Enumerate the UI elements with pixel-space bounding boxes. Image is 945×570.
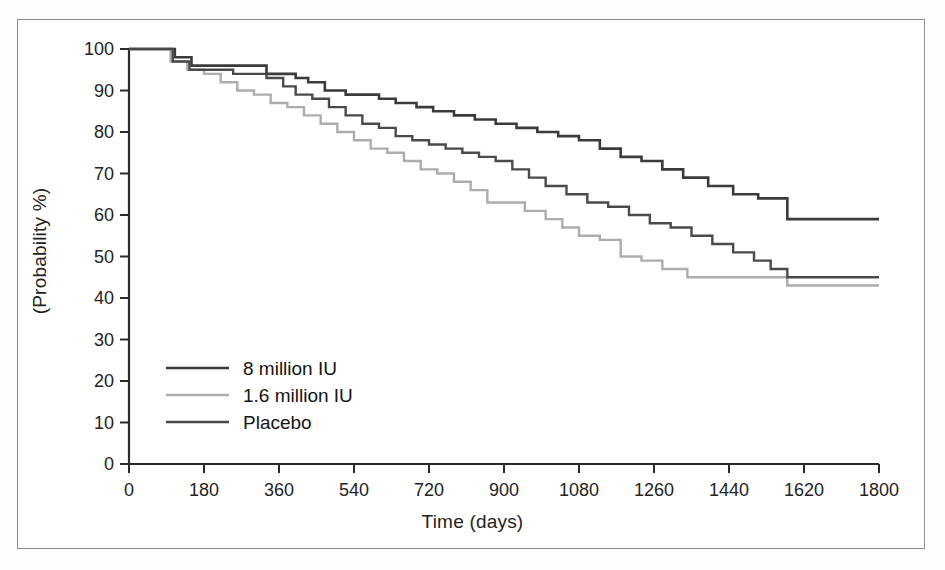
- figure-root: 0102030405060708090100018036054072090010…: [0, 0, 945, 570]
- x-tick-label: 360: [264, 480, 294, 500]
- x-tick-label: 1800: [859, 480, 899, 500]
- series-line-3: [129, 49, 879, 277]
- x-tick-label: 1080: [559, 480, 599, 500]
- x-axis-title: Time (days): [0, 511, 945, 533]
- legend-label-2: 1.6 million IU: [243, 385, 353, 406]
- y-tick-label: 0: [104, 454, 114, 474]
- legend-label-3: Placebo: [243, 412, 312, 433]
- y-tick-label: 90: [94, 81, 114, 101]
- y-tick-label: 50: [94, 247, 114, 267]
- series-group: [129, 49, 879, 286]
- kaplan-meier-plot: 0102030405060708090100018036054072090010…: [18, 20, 926, 550]
- y-tick-label: 60: [94, 205, 114, 225]
- y-axis-title: (Probability %): [29, 141, 51, 361]
- y-tick-label: 70: [94, 164, 114, 184]
- legend: 8 million IU1.6 million IUPlacebo: [166, 358, 353, 433]
- x-tick-label: 1260: [634, 480, 674, 500]
- x-tick-label: 720: [414, 480, 444, 500]
- series-line-2: [129, 49, 879, 286]
- x-tick-label: 900: [489, 480, 519, 500]
- x-tick-label: 180: [189, 480, 219, 500]
- x-tick-label: 1440: [709, 480, 749, 500]
- y-tick-label: 30: [94, 330, 114, 350]
- x-tick-label: 1620: [784, 480, 824, 500]
- y-tick-label: 40: [94, 288, 114, 308]
- y-tick-label: 10: [94, 413, 114, 433]
- legend-label-1: 8 million IU: [243, 358, 337, 379]
- axes: [129, 49, 879, 464]
- x-tick-label: 0: [124, 480, 134, 500]
- y-tick-label: 100: [84, 39, 114, 59]
- x-tick-label: 540: [339, 480, 369, 500]
- x-tick-group: 018036054072090010801260144016201800: [124, 464, 899, 500]
- y-tick-label: 20: [94, 371, 114, 391]
- figure-frame: 0102030405060708090100018036054072090010…: [17, 19, 925, 549]
- y-tick-group: 0102030405060708090100: [84, 39, 129, 474]
- y-tick-label: 80: [94, 122, 114, 142]
